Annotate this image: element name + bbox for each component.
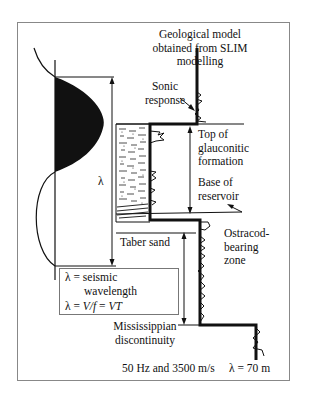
wavelet-negative-lobe xyxy=(36,172,55,266)
reservoir-sand-column xyxy=(116,124,150,222)
label-lambda: λ xyxy=(98,175,104,189)
formula-box: λ = seismic wavelength λ = V/f = VT xyxy=(59,268,179,315)
title-line-3: modelling xyxy=(150,55,250,69)
formula-line-3: λ = V/f = VT xyxy=(65,300,122,313)
label-taber-sand: Taber sand xyxy=(120,236,170,250)
label-mississippian: Mississippian discontinuity xyxy=(95,320,195,347)
footer-conditions: 50 Hz and 3500 m/s xyxy=(122,362,215,376)
arrowhead-up-icon xyxy=(188,126,193,133)
arrowhead-down-icon xyxy=(110,259,115,266)
footer-result: λ = 70 m xyxy=(229,362,270,376)
formula-line-2: wavelength xyxy=(84,285,137,298)
label-base-reservoir: Base of reservoir xyxy=(198,176,239,203)
title-line-1: Geological model xyxy=(150,28,250,42)
arrowhead-icon xyxy=(227,204,234,209)
label-ostracod-zone: Ostracod- bearing zone xyxy=(224,227,269,268)
arrowhead-up-icon xyxy=(110,77,115,84)
formula-line-1: λ = seismic xyxy=(65,271,117,284)
wavelet-upper-tail xyxy=(34,48,55,77)
label-top-glauconitic: Top of glauconitic formation xyxy=(198,128,249,169)
figure-title: Geological model obtained from SLIM mode… xyxy=(150,28,250,69)
log-trace-reservoir xyxy=(150,131,164,205)
wavelet-positive-lobe xyxy=(55,77,104,172)
title-line-2: obtained from SLIM xyxy=(150,42,250,56)
label-sonic-response: Sonic response xyxy=(139,80,191,107)
